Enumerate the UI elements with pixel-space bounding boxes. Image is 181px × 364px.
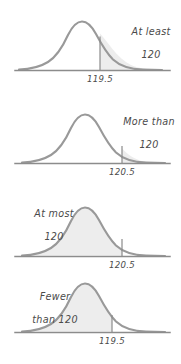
continuity-correction-figure: At least 120 119.5 More than 120 120.5: [0, 0, 181, 364]
shaded-area-left: [22, 208, 122, 256]
panel-at-least-120: At least 120 119.5: [0, 0, 181, 91]
normal-curve: [19, 22, 162, 71]
panel-3-tick-label: 120.5: [100, 260, 144, 270]
panel-2-graphic: [0, 91, 181, 182]
panel-3-graphic: [0, 182, 181, 273]
shaded-area-right: [100, 34, 162, 70]
panel-fewer-than-120: Fewer than 120 119.5: [0, 273, 181, 364]
panel-at-most-120: At most 120 120.5: [0, 182, 181, 273]
normal-curve: [22, 115, 165, 164]
shaded-area-right: [122, 149, 165, 164]
panel-4-tick-label: 119.5: [90, 336, 134, 346]
panel-more-than-120: More than 120 120.5: [0, 91, 181, 182]
shaded-area-left: [22, 284, 112, 332]
panel-4-graphic: [0, 273, 181, 364]
panel-1-tick-label: 119.5: [78, 74, 122, 84]
panel-2-tick-label: 120.5: [100, 167, 144, 177]
